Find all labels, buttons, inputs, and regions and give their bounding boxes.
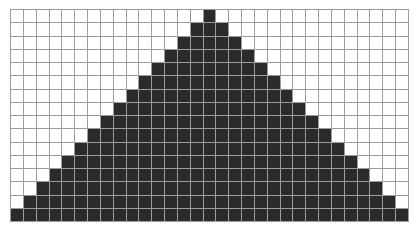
empty-cell [281, 23, 293, 35]
empty-cell [75, 76, 87, 88]
empty-cell [268, 37, 280, 49]
empty-cell [101, 76, 113, 88]
empty-cell [319, 76, 331, 88]
empty-cell [242, 10, 254, 22]
filled-cell [101, 143, 113, 155]
filled-cell [191, 50, 203, 62]
empty-cell [383, 90, 395, 102]
empty-cell [319, 23, 331, 35]
empty-cell [306, 10, 318, 22]
empty-cell [62, 116, 74, 128]
filled-cell [88, 156, 100, 168]
filled-cell [281, 196, 293, 208]
empty-cell [268, 23, 280, 35]
empty-cell [127, 23, 139, 35]
empty-cell [178, 10, 190, 22]
empty-cell [345, 23, 357, 35]
empty-cell [370, 116, 382, 128]
empty-cell [370, 63, 382, 75]
empty-cell [88, 63, 100, 75]
empty-cell [37, 129, 49, 141]
empty-cell [332, 129, 344, 141]
filled-cell [319, 143, 331, 155]
filled-cell [114, 103, 126, 115]
empty-cell [62, 143, 74, 155]
empty-cell [306, 23, 318, 35]
empty-cell [127, 63, 139, 75]
empty-cell [332, 10, 344, 22]
filled-cell [24, 196, 36, 208]
empty-cell [88, 50, 100, 62]
filled-cell [165, 209, 177, 221]
empty-cell [50, 90, 62, 102]
filled-cell [229, 90, 241, 102]
empty-cell [37, 90, 49, 102]
filled-cell [127, 90, 139, 102]
empty-cell [383, 116, 395, 128]
filled-cell [191, 103, 203, 115]
empty-cell [11, 37, 23, 49]
filled-cell [165, 169, 177, 181]
empty-cell [24, 63, 36, 75]
filled-cell [127, 143, 139, 155]
filled-cell [370, 196, 382, 208]
filled-cell [165, 156, 177, 168]
filled-cell [204, 50, 216, 62]
filled-cell [178, 129, 190, 141]
filled-cell [306, 169, 318, 181]
filled-cell [268, 156, 280, 168]
filled-cell [216, 182, 228, 194]
filled-cell [229, 209, 241, 221]
empty-cell [345, 63, 357, 75]
empty-cell [24, 23, 36, 35]
filled-cell [216, 143, 228, 155]
empty-cell [345, 50, 357, 62]
filled-cell [88, 182, 100, 194]
empty-cell [114, 90, 126, 102]
empty-cell [101, 63, 113, 75]
empty-cell [75, 23, 87, 35]
empty-cell [281, 37, 293, 49]
filled-cell [229, 103, 241, 115]
empty-cell [127, 10, 139, 22]
filled-cell [178, 182, 190, 194]
filled-cell [101, 129, 113, 141]
empty-cell [383, 76, 395, 88]
empty-cell [332, 63, 344, 75]
filled-cell [152, 182, 164, 194]
empty-cell [319, 50, 331, 62]
filled-cell [178, 116, 190, 128]
empty-cell [319, 63, 331, 75]
empty-cell [178, 23, 190, 35]
empty-cell [62, 37, 74, 49]
filled-cell [293, 143, 305, 155]
filled-cell [152, 63, 164, 75]
empty-cell [37, 116, 49, 128]
empty-cell [37, 156, 49, 168]
filled-cell [75, 209, 87, 221]
filled-cell [281, 90, 293, 102]
empty-cell [101, 90, 113, 102]
empty-cell [75, 50, 87, 62]
empty-cell [396, 196, 408, 208]
filled-cell [216, 23, 228, 35]
filled-cell [358, 196, 370, 208]
filled-cell [358, 169, 370, 181]
filled-cell [332, 169, 344, 181]
empty-cell [345, 37, 357, 49]
empty-cell [293, 23, 305, 35]
filled-cell [216, 50, 228, 62]
empty-cell [191, 10, 203, 22]
filled-cell [216, 76, 228, 88]
filled-cell [319, 129, 331, 141]
filled-cell [216, 169, 228, 181]
filled-cell [268, 196, 280, 208]
empty-cell [24, 90, 36, 102]
filled-cell [88, 143, 100, 155]
empty-cell [165, 23, 177, 35]
empty-cell [101, 23, 113, 35]
filled-cell [152, 103, 164, 115]
filled-cell [75, 156, 87, 168]
empty-cell [281, 10, 293, 22]
filled-cell [242, 209, 254, 221]
